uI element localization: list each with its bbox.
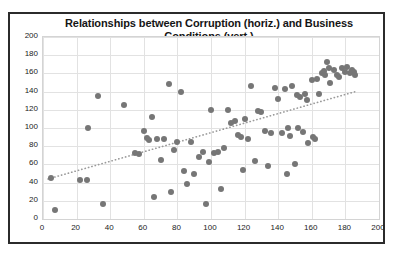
scatter-point (245, 136, 251, 142)
scatter-point (136, 151, 142, 157)
x-axis-tick-label: 160 (298, 223, 324, 232)
gridline-vertical (177, 37, 178, 219)
scatter-point (161, 136, 167, 142)
scatter-point (158, 157, 164, 163)
scatter-point (225, 107, 231, 113)
x-axis-tick-label: 180 (331, 223, 357, 232)
scatter-point (275, 96, 281, 102)
gridline-vertical (312, 37, 313, 219)
scatter-point (141, 128, 147, 134)
scatter-point (85, 125, 91, 131)
gridline-vertical (110, 37, 111, 219)
y-axis-tick-label: 20 (12, 195, 38, 204)
scatter-point (95, 93, 101, 99)
scatter-point (146, 137, 152, 143)
scatter-point (208, 107, 214, 113)
scatter-point (316, 91, 322, 97)
scatter-point (191, 171, 197, 177)
scatter-point (258, 109, 264, 115)
scatter-point (166, 81, 172, 87)
scatter-point (151, 194, 157, 200)
scatter-point (292, 161, 298, 167)
scatter-point (215, 149, 221, 155)
gridline-vertical (43, 37, 44, 219)
scatter-point (285, 125, 291, 131)
scatter-point (300, 129, 306, 135)
x-axis-tick-label: 140 (264, 223, 290, 232)
x-axis-tick-label: 40 (96, 223, 122, 232)
scatter-point (178, 89, 184, 95)
gridline-vertical (245, 37, 246, 219)
scatter-point (171, 147, 177, 153)
scatter-point (279, 130, 285, 136)
scatter-point (336, 74, 342, 80)
y-axis-tick-label: 160 (12, 67, 38, 76)
scatter-point (218, 186, 224, 192)
scatter-point (284, 171, 290, 177)
scatter-point (287, 133, 293, 139)
scatter-point (314, 76, 320, 82)
scatter-point (242, 116, 248, 122)
gridline-vertical (211, 37, 212, 219)
scatter-point (48, 175, 54, 181)
x-axis-tick-label: 80 (163, 223, 189, 232)
scatter-point (272, 85, 278, 91)
scatter-point (232, 118, 238, 124)
y-axis-tick-label: 100 (12, 122, 38, 131)
scatter-point (149, 114, 155, 120)
scatter-point (52, 207, 58, 213)
scatter-point (200, 149, 206, 155)
scatter-point (181, 168, 187, 174)
scatter-point (265, 163, 271, 169)
gridline-vertical (77, 37, 78, 219)
scatter-point (252, 158, 258, 164)
y-axis-tick-label: 0 (12, 213, 38, 222)
scatter-point (327, 80, 333, 86)
chart-figure-frame: Relationships between Corruption (horiz.… (8, 12, 385, 244)
y-axis-tick-label: 180 (12, 49, 38, 58)
x-axis-tick-label: 60 (130, 223, 156, 232)
scatter-point (77, 177, 83, 183)
x-axis-tick-label: 100 (197, 223, 223, 232)
x-axis-tick-label: 120 (231, 223, 257, 232)
scatter-point (248, 83, 254, 89)
scatter-point (289, 83, 295, 89)
y-axis-tick-label: 80 (12, 140, 38, 149)
scatter-point (282, 86, 288, 92)
scatter-point (352, 72, 358, 78)
scatter-point (322, 72, 328, 78)
scatter-point (154, 136, 160, 142)
scatter-point (304, 97, 310, 103)
scatter-point (268, 130, 274, 136)
y-axis-tick-label: 40 (12, 177, 38, 186)
scatter-point (84, 177, 90, 183)
scatter-point (203, 201, 209, 207)
scatter-point (188, 139, 194, 145)
scatter-point (312, 136, 318, 142)
scatter-point (206, 159, 212, 165)
y-axis-tick-label: 200 (12, 31, 38, 40)
scatter-point (121, 102, 127, 108)
scatter-plot-area (42, 36, 380, 220)
scatter-point (196, 154, 202, 160)
y-axis-tick-label: 60 (12, 158, 38, 167)
scatter-point (184, 181, 190, 187)
gridline-vertical (278, 37, 279, 219)
chart-title-line-1: Relationships between Corruption (horiz.… (65, 17, 353, 29)
scatter-point (262, 128, 268, 134)
scatter-point (221, 145, 227, 151)
gridline-horizontal (43, 219, 379, 220)
y-axis-tick-label: 140 (12, 86, 38, 95)
scatter-point (174, 139, 180, 145)
scatter-point (168, 189, 174, 195)
scatter-point (240, 167, 246, 173)
x-axis-tick-label: 0 (29, 223, 55, 232)
x-axis-tick-label: 200 (365, 223, 391, 232)
y-axis-tick-label: 120 (12, 104, 38, 113)
scatter-point (238, 134, 244, 140)
x-axis-tick-label: 20 (63, 223, 89, 232)
gridline-vertical (379, 37, 380, 219)
